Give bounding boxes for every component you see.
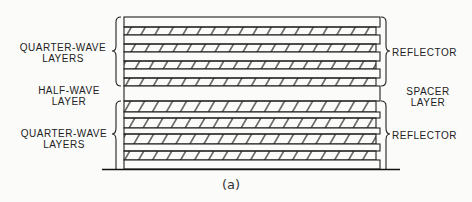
clear-layer xyxy=(124,160,380,169)
figure-caption: (a) xyxy=(222,177,240,192)
label-line: LAYER xyxy=(396,97,460,108)
hatched-layer xyxy=(124,151,376,160)
clear-layer xyxy=(124,86,380,101)
clear-layer xyxy=(124,35,380,44)
hatched-layer xyxy=(124,61,376,69)
label-line: LAYERS xyxy=(14,139,114,150)
label-line: HALF-WAVE xyxy=(24,85,114,96)
right-brace-bottom xyxy=(381,101,390,169)
clear-layer xyxy=(124,17,380,27)
right-brace-top xyxy=(381,17,390,86)
clear-layer xyxy=(124,112,380,118)
label-reflector-top: REFLECTOR xyxy=(392,47,468,58)
label-line: LAYER xyxy=(24,96,114,107)
clear-layer xyxy=(124,144,380,151)
hatched-layer xyxy=(124,44,376,52)
label-quarter-wave-top: QUARTER-WAVE LAYERS xyxy=(12,42,114,64)
label-line: QUARTER-WAVE xyxy=(12,42,114,53)
layer-stack xyxy=(124,17,380,169)
hatched-layer xyxy=(124,78,376,86)
hatched-layer xyxy=(124,134,376,144)
hatched-layer xyxy=(124,118,376,128)
clear-layer xyxy=(124,128,380,134)
clear-layer xyxy=(124,52,380,61)
label-line: QUARTER-WAVE xyxy=(14,128,114,139)
label-quarter-wave-bottom: QUARTER-WAVE LAYERS xyxy=(14,128,114,150)
label-half-wave: HALF-WAVE LAYER xyxy=(24,85,114,107)
clear-layer xyxy=(124,69,380,78)
hatched-layer xyxy=(124,101,376,112)
label-reflector-bottom: REFLECTOR xyxy=(392,130,468,141)
hatched-layer xyxy=(124,27,376,35)
label-line: LAYERS xyxy=(12,53,114,64)
label-spacer-layer: SPACER LAYER xyxy=(396,86,460,108)
label-line: SPACER xyxy=(396,86,460,97)
